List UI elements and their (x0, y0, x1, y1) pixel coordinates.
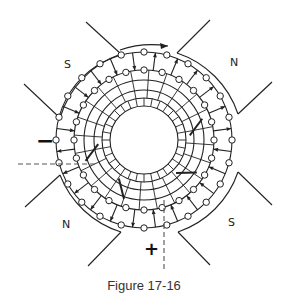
pole-top-right (177, 20, 272, 114)
figure-caption: Figure 17-16 (0, 278, 288, 293)
negative-brush-label: − (36, 128, 54, 153)
pole-top-left (24, 22, 121, 118)
positive-brush-label: + (144, 238, 159, 259)
pole-label-top-right: N (230, 56, 238, 69)
pole-bottom-left (25, 175, 121, 266)
pole-label-top-left: S (64, 58, 71, 71)
pole-label-bottom-right: S (228, 216, 235, 229)
commutator-inner (110, 106, 178, 174)
pole-label-bottom-left: N (62, 218, 70, 231)
pole-bottom-right (178, 172, 272, 265)
